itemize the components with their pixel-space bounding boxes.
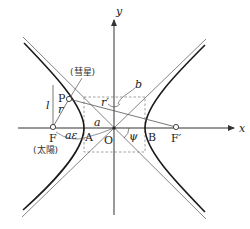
label-a: a (94, 116, 101, 129)
label-l: l (46, 99, 50, 112)
label-psi: ψ (129, 130, 138, 143)
label-r-prime: r′ (101, 96, 109, 109)
y-axis-label: y (115, 5, 123, 18)
point-b-label: B (148, 131, 156, 144)
point-f-label: F (49, 132, 57, 145)
x-axis-label: x (239, 122, 246, 135)
origin-label: O (104, 134, 113, 147)
label-a-epsilon: aε (65, 129, 78, 142)
label-r: r (58, 103, 64, 116)
label-b: b (135, 78, 142, 91)
comet-label: (彗星) (70, 66, 95, 77)
segment-r-prime (69, 99, 176, 127)
origin-dot (112, 126, 115, 129)
point-p-marker (66, 96, 71, 101)
focus-f-prime-marker (173, 124, 178, 129)
point-a-label: A (84, 131, 94, 144)
b-leader (118, 88, 135, 104)
sun-label: (太陽) (33, 144, 58, 155)
hyperbola-orbit-diagram: y x O F F′ P A B (彗星) (太陽) l r r′ a b aε… (0, 0, 250, 229)
focus-f-marker (50, 124, 55, 129)
point-f-prime-label: F′ (171, 132, 182, 145)
